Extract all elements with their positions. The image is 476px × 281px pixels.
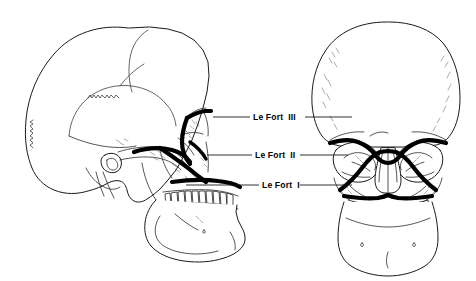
label-le-fort-1: Le Fort I xyxy=(262,181,300,190)
frontal-skull-view xyxy=(312,22,460,276)
frontal-mandible xyxy=(338,202,438,276)
label-le-fort-2: Le Fort II xyxy=(255,151,295,160)
lateral-nasal-bone xyxy=(203,110,208,136)
lateral-cranium-outline xyxy=(25,27,209,202)
lateral-skull-view xyxy=(25,27,245,262)
label-le-fort-3: Le Fort III xyxy=(253,113,296,122)
lateral-mandible xyxy=(145,200,245,262)
fracture-line-le-fort-2-lateral xyxy=(190,142,206,159)
skull-illustration xyxy=(0,0,476,281)
le-fort-fracture-figure: Le Fort III Le Fort II Le Fort I xyxy=(0,0,476,281)
fracture-line-le-fort-1-frontal xyxy=(344,195,432,198)
frontal-cranium-outline xyxy=(312,22,460,147)
